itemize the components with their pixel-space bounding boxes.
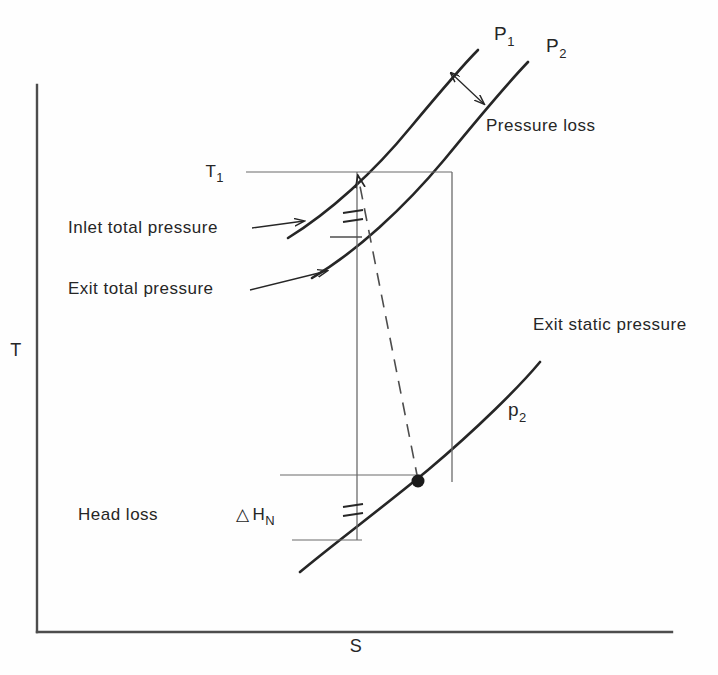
annotations-group: Pressure loss Inlet total pressure Exit … [68, 116, 687, 528]
t1-reference-group: T1 [205, 162, 452, 185]
exit-total-pressure-label: Exit total pressure [68, 279, 214, 298]
pressure-loss-label: Pressure loss [486, 116, 595, 135]
upper-break-mark [343, 210, 363, 222]
exit-static-pressure-label: Exit static pressure [533, 315, 687, 334]
x-axis-label: S [350, 636, 363, 656]
curve-label-p1: P1 [494, 23, 515, 49]
inlet-total-pressure-label: Inlet total pressure [68, 218, 218, 237]
head-loss-label: Head loss [78, 505, 158, 524]
exit-state-point [412, 475, 425, 488]
axes-group: T S [10, 85, 672, 656]
process-lines-group [357, 172, 452, 540]
leader-lines-group [250, 221, 327, 290]
y-axis-label: T [10, 340, 22, 360]
lower-break-mark [343, 504, 363, 516]
ts-diagram-canvas: T S P1 P2 p2 T [0, 0, 718, 675]
isentropic-dashed-line [358, 176, 418, 480]
inlet-total-pressure-curve [288, 50, 478, 238]
inlet-pressure-leader [252, 221, 304, 228]
pressure-loss-arrow-group [451, 73, 484, 104]
ts-diagram-figure: T S P1 P2 p2 T [0, 0, 718, 675]
delta-h-n-label: △HN [236, 505, 275, 528]
curve-label-p2-static: p2 [508, 399, 527, 425]
exit-total-pressure-curve [312, 62, 528, 278]
pressure-loss-arrow [451, 73, 484, 104]
exit-pressure-leader [250, 271, 327, 290]
curve-labels-group: P1 P2 p2 [494, 23, 567, 425]
curve-label-p2: P2 [546, 35, 567, 61]
t1-label: T1 [205, 162, 224, 185]
